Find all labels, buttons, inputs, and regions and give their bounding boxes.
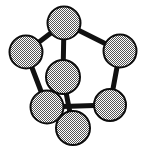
graph-node-top-right [104, 35, 137, 68]
graph-node-top [48, 7, 81, 40]
graph-canvas [0, 0, 144, 151]
graph-node-bottom-right [94, 89, 126, 121]
graph-node-bottom [56, 111, 90, 145]
graph-node-center [46, 60, 80, 94]
graph-figure: Stippled node graph diagram [0, 0, 144, 151]
graph-node-top-left [10, 36, 43, 69]
